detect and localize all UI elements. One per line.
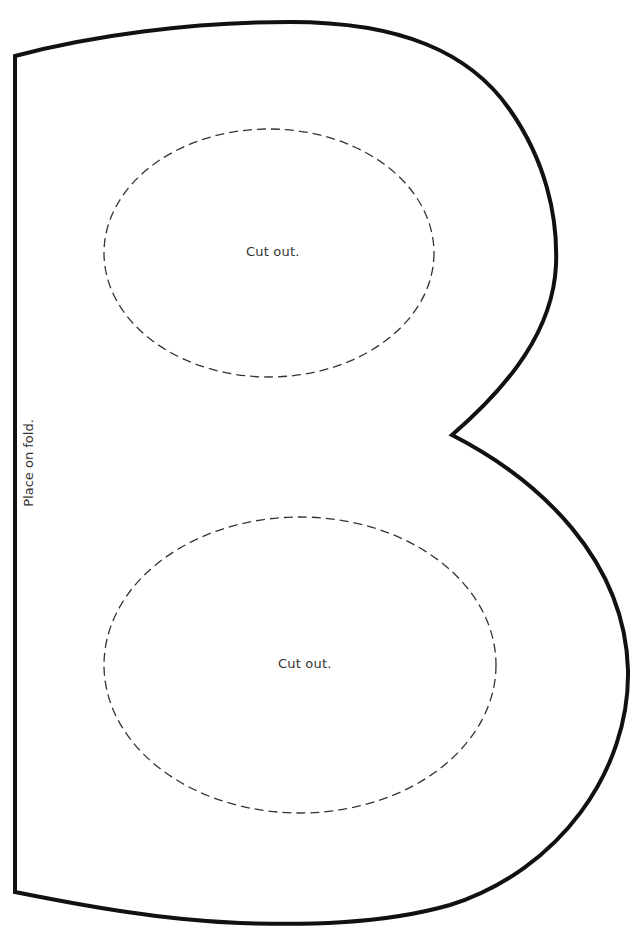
letter-b-outline [15, 22, 628, 924]
place-on-fold-label: Place on fold. [21, 419, 36, 507]
upper-cutout-label: Cut out. [246, 244, 300, 259]
lower-cutout-label: Cut out. [278, 656, 332, 671]
letter-b-template-page: Cut out. Cut out. Place on fold. [0, 0, 642, 927]
letter-b-outline-graphic [0, 0, 642, 927]
